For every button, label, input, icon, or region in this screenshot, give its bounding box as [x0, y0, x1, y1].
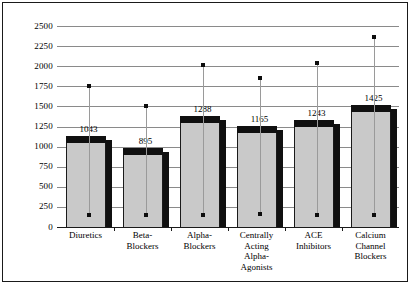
- bar[interactable]: [180, 116, 220, 227]
- x-axis-category-label: CentrallyActingAlpha-Agonists: [228, 230, 285, 272]
- bar-front-face: [66, 143, 106, 227]
- error-bar-line: [317, 63, 318, 215]
- bar-front-face: [123, 155, 163, 227]
- bar-front-face: [294, 127, 334, 227]
- error-bar-upper-marker: [144, 104, 148, 108]
- error-bar-lower-marker: [258, 212, 262, 216]
- y-axis-tick-label: 2000: [7, 62, 53, 71]
- y-axis-tick-labels: 02505007501000125015001750200022502500: [3, 26, 53, 227]
- chart-frame: 02505007501000125015001750200022502500 1…: [2, 2, 408, 282]
- gridline: [57, 127, 399, 128]
- y-axis-tick-label: 500: [7, 182, 53, 191]
- error-bar-line: [89, 86, 90, 214]
- gridline: [57, 66, 399, 67]
- bar-top-face: [180, 116, 220, 123]
- error-bar-lower-marker: [87, 213, 91, 217]
- y-axis-tick-label: 1500: [7, 102, 53, 111]
- error-bar-lower-marker: [372, 213, 376, 217]
- x-axis-category-label-line: Blockers: [342, 251, 399, 262]
- gridline: [57, 106, 399, 107]
- gridline: [57, 26, 399, 27]
- error-bar-line: [146, 106, 147, 215]
- x-axis-category-label: Diuretics: [57, 230, 114, 241]
- bar-side-face: [220, 120, 226, 227]
- bar-top-face: [351, 105, 391, 112]
- error-bar-line: [203, 65, 204, 215]
- x-axis-category-label-line: Beta-: [114, 230, 171, 241]
- bar[interactable]: [294, 120, 334, 227]
- error-bar-upper-marker: [201, 63, 205, 67]
- y-axis-tick-label: 1000: [7, 142, 53, 151]
- x-axis-category-label-line: Alpha-: [228, 251, 285, 262]
- error-bar-upper-marker: [258, 76, 262, 80]
- x-axis-category-label-line: ACE: [285, 230, 342, 241]
- bar-front-face: [180, 123, 220, 227]
- bar[interactable]: [237, 126, 277, 227]
- y-axis-tick-label: 2500: [7, 22, 53, 31]
- x-axis-category-label-line: Centrally: [228, 230, 285, 241]
- y-axis-tick-label: 0: [7, 223, 53, 232]
- error-bar-lower-marker: [201, 213, 205, 217]
- bar-side-face: [106, 140, 112, 227]
- bar-side-face: [277, 130, 283, 227]
- plot-area: 10438951288116512431425: [57, 26, 399, 227]
- error-bar-upper-marker: [315, 61, 319, 65]
- bar-front-face: [351, 112, 391, 227]
- x-axis-category-label-line: Alpha-: [171, 230, 228, 241]
- bar-top-face: [66, 136, 106, 143]
- bar-top-face: [123, 148, 163, 155]
- y-axis-tick-label: 1750: [7, 82, 53, 91]
- x-axis-category-label: Beta-Blockers: [114, 230, 171, 251]
- x-axis-category-label-line: Calcium: [342, 230, 399, 241]
- bar-side-face: [391, 109, 397, 227]
- x-axis-category-label-line: Blockers: [114, 241, 171, 252]
- x-axis-category-label-line: Acting: [228, 241, 285, 252]
- x-axis-category-label-line: Diuretics: [57, 230, 114, 241]
- bar[interactable]: [66, 136, 106, 227]
- gridline: [57, 86, 399, 87]
- bar-side-face: [163, 152, 169, 227]
- bar-top-face: [237, 126, 277, 133]
- x-axis-category-label: ACEInhibitors: [285, 230, 342, 251]
- y-axis-tick-label: 250: [7, 202, 53, 211]
- error-bar-upper-marker: [87, 84, 91, 88]
- x-axis-category-label-line: Blockers: [171, 241, 228, 252]
- x-axis-category-labels: DiureticsBeta-BlockersAlpha-BlockersCent…: [57, 230, 399, 284]
- error-bar-line: [374, 37, 375, 214]
- bar[interactable]: [123, 148, 163, 227]
- error-bar-line: [260, 78, 261, 214]
- bar-top-face: [294, 120, 334, 127]
- x-axis-category-label: Alpha-Blockers: [171, 230, 228, 251]
- x-axis-category-label-line: Inhibitors: [285, 241, 342, 252]
- bar-front-face: [237, 133, 277, 227]
- bar-side-face: [334, 124, 340, 227]
- error-bar-lower-marker: [315, 213, 319, 217]
- x-axis-category-label-line: Agonists: [228, 262, 285, 273]
- x-axis-category-label-line: Channel: [342, 241, 399, 252]
- gridline: [57, 46, 399, 47]
- error-bar-lower-marker: [144, 213, 148, 217]
- y-axis-tick-label: 2250: [7, 42, 53, 51]
- x-axis-category-label: CalciumChannelBlockers: [342, 230, 399, 262]
- bar[interactable]: [351, 105, 391, 227]
- y-axis-tick-label: 750: [7, 162, 53, 171]
- y-axis-tick-label: 1250: [7, 122, 53, 131]
- error-bar-upper-marker: [372, 35, 376, 39]
